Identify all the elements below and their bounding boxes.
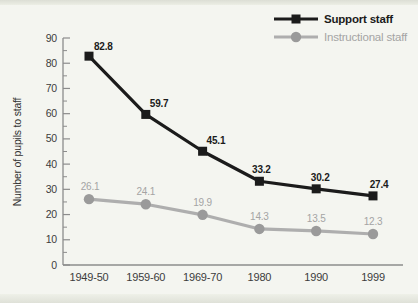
series-instructional-staff: 26.124.119.914.313.512.3 — [81, 181, 383, 239]
instructional-staff-value-label: 26.1 — [81, 181, 100, 192]
support-staff-value-label: 45.1 — [207, 135, 226, 146]
x-tick-label: 1980 — [248, 271, 272, 283]
series-support-staff: 82.859.745.133.230.227.4 — [85, 41, 389, 200]
y-tick-label: 80 — [46, 57, 58, 69]
support-staff-value-label: 30.2 — [311, 172, 330, 183]
support-staff-marker — [198, 147, 207, 156]
y-tick-label: 10 — [46, 233, 58, 245]
instructional-staff-marker — [311, 226, 321, 236]
x-tick-label: 1969-70 — [183, 271, 222, 283]
y-tick-label: 40 — [46, 158, 58, 170]
support-staff-marker — [85, 52, 94, 61]
legend-instructional-staff-marker — [291, 32, 301, 42]
legend-support-staff-label: Support staff — [324, 13, 393, 25]
x-tick-label: 1959-60 — [126, 271, 165, 283]
support-staff-value-label: 59.7 — [150, 98, 169, 109]
page-bottom-band — [0, 294, 418, 303]
support-staff-value-label: 33.2 — [252, 164, 271, 175]
instructional-staff-value-label: 13.5 — [307, 213, 326, 224]
pupils-to-staff-line-chart: 01020304050607080901949-501959-601969-70… — [0, 0, 418, 303]
x-tick-label: 1949-50 — [70, 271, 109, 283]
instructional-staff-marker — [368, 229, 378, 239]
y-tick-label: 30 — [46, 183, 58, 195]
support-staff-line — [89, 56, 373, 196]
y-tick-label: 90 — [46, 32, 58, 44]
y-tick-label: 60 — [46, 107, 58, 119]
instructional-staff-marker — [254, 224, 264, 234]
instructional-staff-value-label: 19.9 — [193, 197, 212, 208]
support-staff-marker — [141, 110, 150, 119]
support-staff-value-label: 82.8 — [94, 41, 113, 52]
instructional-staff-marker — [84, 194, 94, 204]
support-staff-marker — [312, 184, 321, 193]
axes: 01020304050607080901949-501959-601969-70… — [46, 32, 403, 284]
instructional-staff-value-label: 14.3 — [250, 211, 269, 222]
x-tick-label: 1990 — [304, 271, 328, 283]
instructional-staff-value-label: 24.1 — [136, 186, 155, 197]
instructional-staff-value-label: 12.3 — [364, 216, 383, 227]
legend-instructional-staff-label: Instructional staff — [324, 31, 408, 43]
instructional-staff-marker — [141, 199, 151, 209]
instructional-staff-line — [89, 199, 373, 234]
support-staff-value-label: 27.4 — [370, 179, 389, 190]
y-axis-title: Number of pupils to staff — [11, 97, 23, 206]
support-staff-marker — [369, 191, 378, 200]
x-tick-label: 1999 — [361, 271, 385, 283]
y-tick-label: 0 — [51, 259, 57, 271]
instructional-staff-marker — [197, 210, 207, 220]
scanned-page: 01020304050607080901949-501959-601969-70… — [0, 0, 418, 303]
y-tick-label: 50 — [46, 132, 58, 144]
y-tick-label: 20 — [46, 208, 58, 220]
y-tick-label: 70 — [46, 82, 58, 94]
support-staff-marker — [255, 177, 264, 186]
legend: Support staffInstructional staff — [274, 13, 408, 43]
legend-support-staff-marker — [292, 15, 301, 24]
